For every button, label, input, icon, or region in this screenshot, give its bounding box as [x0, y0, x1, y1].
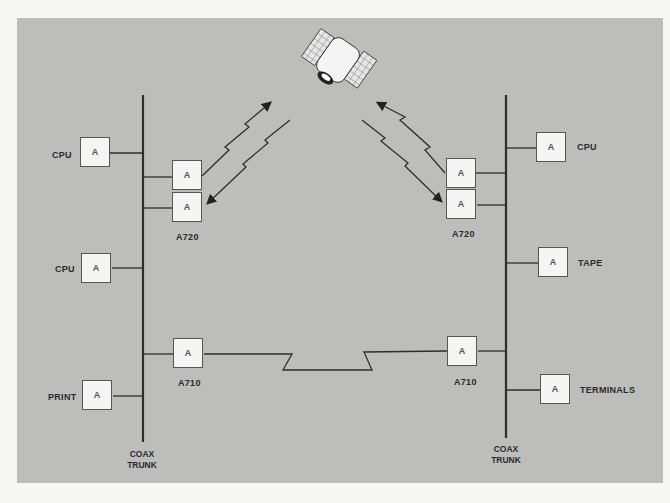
device-label-tape: TAPE	[578, 258, 603, 268]
a710-left-label: A710	[178, 378, 201, 388]
a710-left-adapter[interactable]: A	[173, 338, 203, 368]
a720-right-label: A720	[452, 229, 475, 239]
right-trunk-label: COAX TRUNK	[486, 444, 526, 466]
device-label-cpu-1: CPU	[52, 150, 72, 160]
device-label-cpu-right: CPU	[577, 142, 597, 152]
right-downlink	[362, 120, 441, 201]
a720-left-adapter-2[interactable]: A	[172, 192, 202, 222]
adapter-terminals[interactable]: A	[540, 374, 570, 404]
left-downlink	[208, 120, 290, 203]
device-label-terminals: TERMINALS	[580, 385, 635, 395]
adapter-tape[interactable]: A	[538, 247, 568, 277]
wiring-layer	[0, 0, 670, 503]
device-label-print: PRINT	[48, 392, 77, 402]
left-uplink	[202, 103, 270, 176]
right-uplink	[378, 103, 445, 173]
adapter-cpu-1[interactable]: A	[80, 137, 110, 167]
a720-right-adapter-2[interactable]: A	[446, 189, 476, 219]
leased-line-link	[204, 351, 447, 370]
device-label-cpu-2: CPU	[55, 264, 75, 274]
a710-right-adapter[interactable]: A	[447, 336, 477, 366]
a710-right-label: A710	[454, 377, 477, 387]
left-trunk-label: COAX TRUNK	[122, 449, 162, 471]
a720-right-adapter-1[interactable]: A	[446, 158, 476, 188]
a720-left-label: A720	[176, 232, 199, 242]
satellite-icon	[296, 24, 377, 101]
adapter-print[interactable]: A	[82, 380, 112, 410]
adapter-cpu-right[interactable]: A	[536, 132, 566, 162]
adapter-cpu-2[interactable]: A	[81, 253, 111, 283]
a720-left-adapter-1[interactable]: A	[172, 160, 202, 190]
